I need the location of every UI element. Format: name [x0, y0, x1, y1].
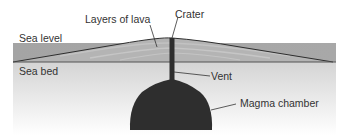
- crater-label: Crater: [175, 9, 204, 20]
- layers-of-lava-label: Layers of lava: [85, 14, 150, 25]
- vent-label: Vent: [211, 71, 232, 82]
- sea-bed-label: Sea bed: [19, 66, 58, 77]
- vent: [170, 38, 175, 84]
- sea-level-label: Sea level: [19, 33, 62, 44]
- crater-leader: [172, 17, 178, 38]
- magma-chamber-label: Magma chamber: [240, 98, 319, 109]
